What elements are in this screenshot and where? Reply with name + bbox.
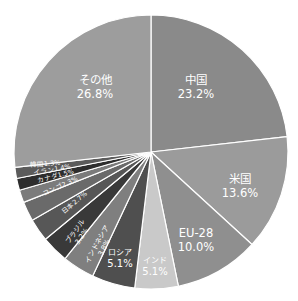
slice-label: その他26.8%	[77, 73, 114, 101]
pie-chart: 中国23.2%米国13.6%EU-2810.0%インド5.1%ロシア5.1%イン…	[0, 0, 298, 301]
slice-label: EU-2810.0%	[178, 226, 215, 254]
pie-slices	[14, 15, 288, 289]
slice-label: ロシア5.1%	[107, 248, 132, 269]
slice-label: インド5.1%	[142, 256, 167, 277]
pie-slice-0	[151, 15, 287, 152]
